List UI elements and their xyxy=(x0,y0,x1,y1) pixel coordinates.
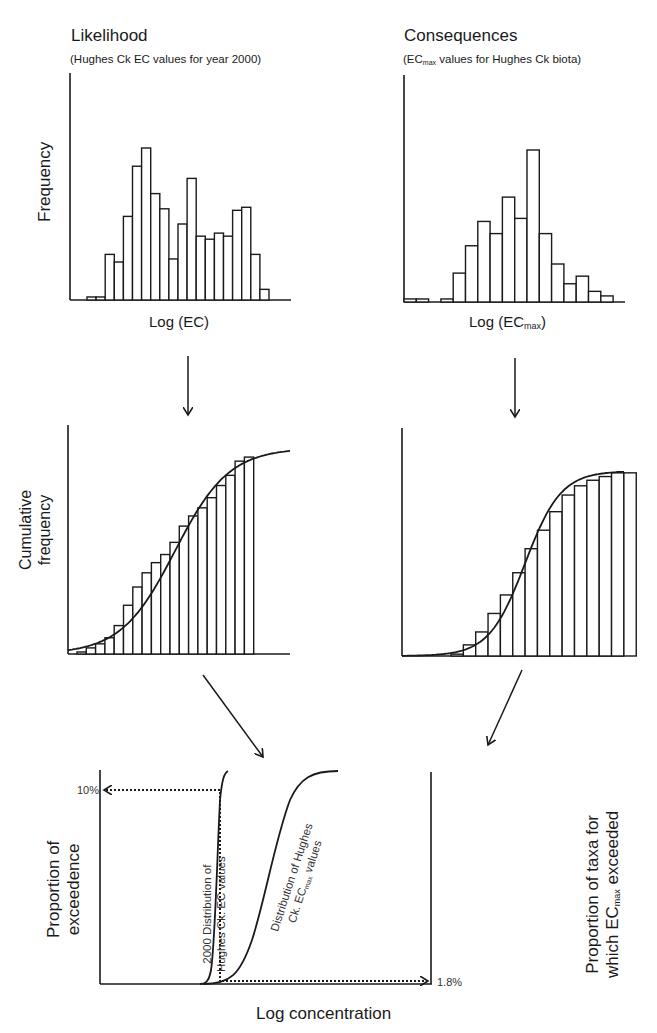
histogram-bar xyxy=(133,587,142,654)
histogram-bar xyxy=(564,284,576,302)
histogram-bar xyxy=(123,216,132,300)
consequences-histogram xyxy=(404,75,625,302)
histogram-bar xyxy=(151,563,160,654)
histogram-bar xyxy=(562,495,574,656)
histogram-bar xyxy=(235,461,244,654)
exceedance-left-ylabel: Proportion of exceedence xyxy=(44,841,84,938)
histogram-bar xyxy=(189,516,198,654)
histogram-bar xyxy=(451,654,463,656)
likelihood-ylabel: Frequency xyxy=(35,142,55,222)
histogram-bar xyxy=(187,178,196,300)
histogram-bar xyxy=(490,234,502,302)
histogram-bar xyxy=(214,233,223,300)
consequences-title: Consequences xyxy=(404,26,517,46)
exceedance-xlabel: Log concentration xyxy=(256,1004,391,1024)
consequences-subtitle: (ECmax values for Hughes Ck biota) xyxy=(403,53,581,66)
histogram-bar xyxy=(453,273,465,302)
likelihood-subtitle: (Hughes Ck EC values for year 2000) xyxy=(70,53,261,65)
histogram-bar xyxy=(601,296,613,302)
likelihood-histogram xyxy=(70,73,291,300)
likelihood-bars xyxy=(87,148,269,300)
histogram-bar xyxy=(142,148,151,300)
histogram-bar xyxy=(527,150,539,302)
histogram-bar xyxy=(105,638,114,654)
marker-10-percent: 10% xyxy=(77,784,99,796)
histogram-bar xyxy=(441,299,453,302)
histogram-bar xyxy=(105,254,114,300)
histogram-bar xyxy=(624,473,636,656)
diagram-canvas xyxy=(0,0,657,1033)
ec-curve-label: 2000 Distribution of Hughes Ck. EC value… xyxy=(200,856,228,972)
histogram-bar xyxy=(114,262,123,300)
histogram-bar xyxy=(251,254,260,300)
exceedance-chart xyxy=(100,770,432,984)
histogram-bar xyxy=(502,197,514,302)
histogram-bar xyxy=(513,573,525,656)
consequences-bars xyxy=(404,150,613,302)
histogram-bar xyxy=(242,207,251,300)
histogram-bar xyxy=(575,486,587,656)
likelihood-title: Likelihood xyxy=(71,26,148,46)
histogram-bar xyxy=(550,512,562,656)
histogram-bar xyxy=(260,289,269,300)
histogram-bar xyxy=(589,291,601,302)
histogram-bar xyxy=(179,526,188,654)
histogram-bar xyxy=(160,209,169,300)
histogram-bar xyxy=(224,236,233,300)
cumulative-ec-bars xyxy=(77,457,254,654)
histogram-bar xyxy=(114,626,123,654)
histogram-bar xyxy=(205,239,214,300)
histogram-bar xyxy=(96,644,105,654)
histogram-bar xyxy=(599,477,611,656)
histogram-bar xyxy=(196,236,205,300)
histogram-bar xyxy=(233,210,242,300)
histogram-bar xyxy=(207,498,216,654)
marker-1-8-percent: 1.8% xyxy=(437,976,462,988)
histogram-bar xyxy=(576,276,588,302)
histogram-bar xyxy=(587,480,599,656)
histogram-bar xyxy=(142,573,151,654)
arrow-diagonal-right xyxy=(488,670,522,745)
histogram-bar xyxy=(133,166,142,300)
histogram-bar xyxy=(217,486,226,654)
exceedance-right-ylabel: Proportion of taxa for which ECmax excee… xyxy=(583,811,627,978)
histogram-bar xyxy=(515,218,527,302)
histogram-bar xyxy=(244,457,253,654)
histogram-bar xyxy=(198,508,207,654)
histogram-bar xyxy=(178,224,187,300)
arrow-diagonal-left xyxy=(203,675,263,757)
histogram-bar xyxy=(86,648,95,654)
cumulative-ecmax-bars xyxy=(451,473,636,656)
histogram-bar xyxy=(525,549,537,656)
histogram-bar xyxy=(87,297,96,300)
histogram-bar xyxy=(478,221,490,302)
cumulative-ecmax-chart xyxy=(402,428,636,656)
histogram-bar xyxy=(169,259,178,300)
histogram-bar xyxy=(404,299,416,302)
histogram-bar xyxy=(500,595,512,656)
histogram-bar xyxy=(539,234,551,302)
histogram-bar xyxy=(612,473,624,656)
cumulative-ylabel: Cumulative frequency xyxy=(16,490,54,570)
histogram-bar xyxy=(151,194,160,300)
cumulative-ec-chart xyxy=(68,425,290,654)
consequences-xlabel: Log (ECmax) xyxy=(469,313,546,331)
histogram-bar xyxy=(466,246,478,302)
histogram-bar xyxy=(124,605,133,654)
histogram-bar xyxy=(226,475,235,654)
histogram-bar xyxy=(77,652,86,654)
histogram-bar xyxy=(552,264,564,302)
histogram-bar xyxy=(416,299,428,302)
likelihood-xlabel: Log (EC) xyxy=(149,313,209,330)
histogram-bar xyxy=(96,297,105,300)
histogram-bar xyxy=(537,530,549,656)
